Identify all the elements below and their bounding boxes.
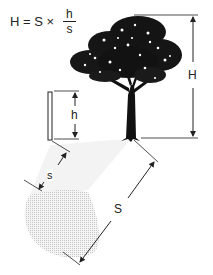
shadow-beams [30, 140, 130, 195]
tree-shadow-icon [25, 190, 99, 258]
stick-icon [48, 92, 52, 140]
label-stick-height: h [71, 109, 78, 121]
label-tree-height: H [188, 69, 197, 81]
diagram-canvas [0, 0, 213, 275]
label-tree-shadow: S [114, 203, 122, 215]
label-stick-shadow: s [47, 169, 53, 181]
tree-icon [70, 16, 182, 142]
